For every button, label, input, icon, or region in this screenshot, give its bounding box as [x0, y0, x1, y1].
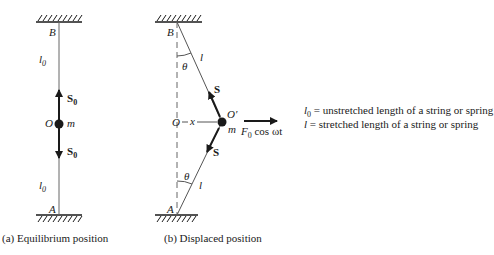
floor-support-a	[36, 215, 82, 222]
point-o-label-a: O	[45, 118, 53, 129]
point-b-label-b: B	[167, 27, 174, 38]
length-label-lower-b: l	[199, 180, 202, 191]
tension-label-upper-b: S	[214, 84, 220, 95]
angle-label-lower-b: θ	[184, 171, 189, 182]
floor-support-b	[155, 215, 198, 222]
length-label-lower-a: l0	[39, 180, 46, 191]
legend-stretched: l = stretched length of a string or spri…	[304, 118, 478, 131]
point-b-label-a: B	[49, 27, 56, 38]
point-a-label-a: A	[49, 204, 56, 215]
ceiling-support-a	[36, 15, 82, 22]
mass-label-a: m	[67, 118, 75, 129]
point-o-prime-label: O′	[227, 109, 237, 120]
length-label-upper-a: l0	[39, 54, 46, 65]
point-o-label-b: O	[172, 117, 180, 128]
caption-b: (b) Displaced position	[164, 232, 262, 244]
ceiling-support-b	[155, 15, 202, 22]
mass-a	[55, 120, 64, 129]
tension-label-lower-a: S0	[67, 146, 77, 157]
length-label-upper-b: l	[200, 52, 203, 63]
angle-label-upper-b: θ	[182, 61, 187, 72]
legend-unstretched: l0 = unstretched length of a string or s…	[304, 104, 493, 118]
angle-arc-top	[177, 53, 191, 56]
caption-a: (a) Equilibrium position	[2, 232, 108, 244]
mass-label-b: m	[228, 124, 236, 135]
tension-arrow-upper-b	[209, 92, 220, 117]
applied-force-label: F0 cos ωt	[241, 126, 282, 137]
tension-label-upper-a: S0	[67, 93, 77, 104]
displacement-label: x	[190, 116, 195, 127]
tension-label-lower-b: S	[213, 147, 219, 158]
mass-b	[218, 118, 227, 127]
point-a-label-b: A	[167, 204, 174, 215]
